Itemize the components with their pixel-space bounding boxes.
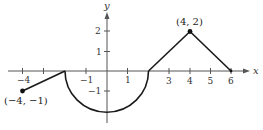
- y-axis-arrow-icon: [105, 12, 110, 19]
- point-label-4-2: (4, 2): [176, 16, 203, 27]
- x-tick-label: 6: [228, 76, 234, 86]
- y-axis-label: y: [103, 0, 110, 11]
- function-curve: [23, 32, 232, 113]
- x-tick-label: −4: [17, 75, 31, 85]
- point-label-neg4-neg1: (−4, −1): [4, 95, 48, 106]
- y-tick-label: 1: [96, 47, 102, 57]
- x-tick-label: 1: [125, 75, 131, 85]
- point-neg4-neg1: [20, 89, 25, 94]
- x-axis-arrow-icon: [243, 69, 250, 74]
- x-tick-label: 4: [187, 76, 193, 86]
- y-tick-label: −1: [88, 86, 101, 96]
- point-6-0: [230, 70, 233, 73]
- point-4-2: [188, 29, 193, 34]
- y-tick-label: 2: [95, 26, 101, 36]
- x-tick-label: 3: [166, 76, 172, 86]
- segment-line-3: [190, 32, 231, 72]
- x-axis-label: x: [253, 65, 259, 76]
- x-tick-label: 5: [208, 76, 214, 86]
- function-graph: x y −4 −1 1 3 4 5 6 2 1 −1: [0, 0, 263, 130]
- segment-line-2: [149, 32, 191, 72]
- x-tick-label: −1: [80, 75, 93, 85]
